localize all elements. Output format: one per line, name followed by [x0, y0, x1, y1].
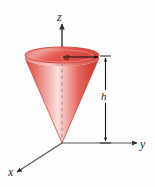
x-axis-label: x — [8, 166, 13, 178]
radius-a-label: a — [64, 52, 69, 62]
height-h-label: h — [101, 91, 107, 102]
cone-solid — [25, 47, 99, 143]
cone-figure: z y x a h — [0, 0, 155, 187]
y-axis-label: y — [140, 138, 145, 150]
x-axis-line — [17, 143, 62, 172]
z-axis-label: z — [57, 11, 62, 23]
figure-canvas — [0, 0, 155, 187]
